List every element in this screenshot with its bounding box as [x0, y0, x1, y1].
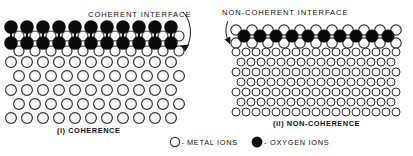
legend-label-metal-ions: METAL IONS	[187, 138, 238, 147]
legend: - METAL IONS - OXYGEN IONS	[170, 137, 329, 147]
coherent-substrate-lattice	[6, 57, 185, 124]
non-coherent-interface-label: NON-COHERENT INTERFACE	[222, 8, 348, 17]
legend-label-oxygen-ions: OXYGEN IONS	[270, 138, 329, 147]
substrate-row	[14, 71, 185, 82]
legend-item-metal-ions: - METAL IONS	[170, 137, 238, 147]
figure-canvas: COHERENT INTERFACE	[0, 0, 413, 156]
metal-ion-swatch-icon	[170, 137, 179, 146]
substrate-row	[232, 68, 400, 76]
non-coherent-interface-pointer	[225, 21, 231, 44]
coherent-oxygen-row-2	[4, 36, 177, 49]
substrate-row	[237, 58, 395, 66]
legend-item-oxygen-ions: - OXYGEN IONS	[252, 137, 330, 147]
substrate-row	[14, 99, 185, 110]
substrate-row	[232, 48, 400, 56]
caption-non-coherence: (ii) NON-COHERENCE	[273, 119, 360, 128]
legend-dash-oxygen: -	[264, 138, 267, 147]
substrate-row	[237, 98, 395, 106]
oxygen-ion-swatch-icon	[252, 137, 262, 147]
legend-dash-metal: -	[182, 138, 185, 147]
substrate-row	[237, 78, 395, 86]
coherent-oxygen-row-1	[4, 20, 177, 33]
coherent-interface-label: COHERENT INTERFACE	[88, 10, 191, 19]
substrate-row	[6, 113, 177, 124]
substrate-row	[6, 57, 177, 68]
scientific-figure: COHERENT INTERFACE	[0, 0, 413, 156]
substrate-row	[232, 108, 400, 116]
substrate-row	[6, 85, 177, 96]
panel-non-coherence: NON-COHERENT INTERFACE	[222, 8, 401, 128]
non-coherent-substrate-lattice	[232, 48, 400, 116]
caption-coherence: (i) COHERENCE	[57, 126, 120, 135]
panel-coherence: COHERENT INTERFACE	[4, 10, 191, 135]
substrate-row	[232, 88, 400, 96]
